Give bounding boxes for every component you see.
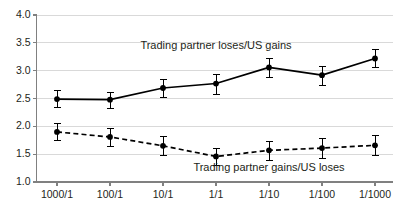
y-axis-tick-label: 2.5 [16,92,31,104]
data-point-marker [213,81,219,87]
x-axis-tick-label: 1/100 [309,188,335,200]
y-axis-tick-label: 1.5 [16,147,31,159]
data-point-marker [266,64,272,70]
data-point-marker [213,154,219,160]
x-axis-tick-label: 10/1 [153,188,174,200]
chart-figure: 1.01.52.02.53.03.54.0 1000/1100/110/11/1… [0,0,398,222]
data-point-marker [372,142,378,148]
data-point-marker [372,56,378,62]
data-point-marker [319,72,325,78]
series-group [54,49,379,165]
data-series [54,49,379,108]
data-point-marker [54,96,60,102]
y-axis-tick-label: 4.0 [16,8,31,20]
y-axis-tick-label: 1.0 [16,175,31,187]
data-point-marker [160,85,166,91]
data-point-marker [107,134,113,140]
y-axis-tick-label: 3.0 [16,64,31,76]
data-point-marker [54,129,60,135]
x-axis-tick-label: 100/1 [97,188,123,200]
y-axis-tick-label: 2.0 [16,119,31,131]
y-axis-tick-label: 3.5 [16,36,31,48]
x-tick-labels-group: 1000/1100/110/11/11/101/1001/1000 [41,188,391,200]
x-axis-tick-label: 1/1000 [359,188,391,200]
data-point-marker [266,147,272,153]
data-series [54,123,379,165]
data-point-marker [160,143,166,149]
annotations-group: Trading partner loses/US gainsTrading pa… [140,39,345,173]
data-point-marker [107,97,113,103]
y-tick-labels-group: 1.01.52.02.53.03.54.0 [16,8,31,187]
series-label-upper: Trading partner loses/US gains [140,39,292,51]
x-axis-tick-label: 1/10 [259,188,280,200]
series-label-lower: Trading partner gains/US loses [193,161,345,173]
x-axis-tick-label: 1/1 [209,188,224,200]
x-axis-tick-label: 1000/1 [41,188,73,200]
line-chart-plot: 1.01.52.02.53.03.54.0 1000/1100/110/11/1… [0,0,398,222]
data-point-marker [319,145,325,151]
